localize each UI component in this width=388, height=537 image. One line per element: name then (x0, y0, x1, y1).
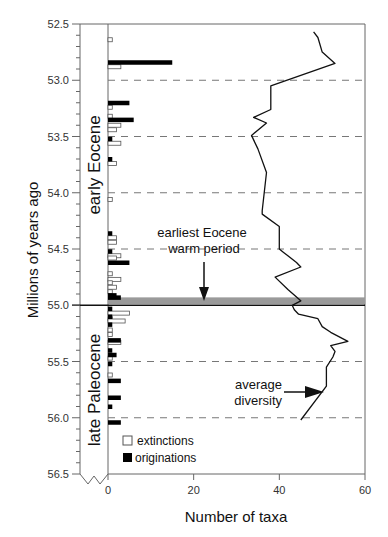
arrow-right-icon (284, 386, 324, 398)
annotation-diversity-line2: diversity (234, 393, 282, 408)
origination-bar (108, 295, 121, 300)
origination-bar (108, 60, 172, 65)
extinction-bar (108, 281, 112, 285)
extinction-bar (108, 256, 117, 260)
origination-bar (108, 307, 112, 312)
extinction-bar (108, 373, 112, 377)
origination-bar (108, 157, 112, 162)
x-tick-label: 0 (105, 484, 111, 496)
extinction-bar (108, 162, 117, 166)
annotation-warm-period-line2: warm period (167, 241, 240, 256)
x-tick-label: 20 (188, 484, 200, 496)
x-tick-label: 40 (273, 484, 285, 496)
extinction-bar (108, 240, 117, 244)
extinction-bar (108, 38, 112, 42)
origination-bar (108, 231, 112, 236)
origination-bar (108, 322, 112, 327)
origination-bar (108, 338, 121, 343)
extinction-bar (108, 65, 121, 69)
extinction-bar (108, 328, 112, 332)
origination-bar (108, 137, 112, 142)
extinction-bar (108, 333, 112, 337)
origination-bar (108, 353, 117, 358)
x-tick-label: 60 (359, 484, 371, 496)
extinction-bar (108, 105, 112, 109)
legend-originations-swatch (123, 453, 132, 462)
extinction-bar (108, 141, 121, 145)
origination-bar (108, 101, 129, 106)
extinction-bar (108, 128, 117, 132)
legend-extinctions-label: extinctions (137, 434, 194, 448)
x-axis-ticks: 0204060 (105, 474, 371, 496)
axis-break-zigzag (80, 474, 108, 484)
origination-bar (108, 249, 112, 254)
y-axis-ticks: 52.553.053.554.054.555.055.556.056.5 (48, 18, 80, 480)
y-axis-title: Millions of years ago (24, 182, 41, 319)
legend-originations-label: originations (135, 451, 196, 465)
x-axis-title: Number of taxa (185, 508, 288, 525)
warm-period-band-rect (108, 297, 365, 304)
origination-bar (108, 348, 112, 353)
y-tick-label: 53.0 (48, 74, 69, 86)
y-tick-label: 53.5 (48, 131, 69, 143)
extinction-bar (108, 272, 112, 276)
y-tick-label: 55.0 (48, 299, 69, 311)
annotation-warm-period-line1: earliest Eocene (157, 225, 247, 240)
y-tick-label: 54.0 (48, 187, 69, 199)
origination-bar (108, 261, 129, 266)
chart-svg: 52.553.053.554.054.555.055.556.056.5 020… (0, 0, 388, 537)
extinction-bar (108, 198, 112, 202)
y-tick-label: 56.0 (48, 412, 69, 424)
y-tick-label: 56.5 (48, 468, 69, 480)
extinction-bar (108, 123, 121, 127)
origination-bar (108, 315, 112, 320)
epoch-label-early-eocene: early Eocene (85, 115, 104, 214)
y-tick-label: 55.5 (48, 356, 69, 368)
origination-bar (108, 118, 134, 123)
legend-extinctions-swatch (123, 436, 132, 445)
chart-container: 52.553.053.554.054.555.055.556.056.5 020… (0, 0, 388, 537)
origination-bar (108, 420, 121, 425)
origination-bar (108, 396, 121, 401)
extinction-bar (108, 285, 117, 289)
origination-bar (108, 405, 112, 410)
legend: extinctions originations (123, 434, 196, 465)
epoch-label-late-paleocene: late Paleocene (85, 334, 104, 446)
arrow-down-icon (199, 262, 209, 301)
y-tick-label: 52.5 (48, 18, 69, 30)
y-tick-label: 54.5 (48, 243, 69, 255)
extinction-bar (108, 236, 117, 240)
origination-bar (108, 362, 112, 367)
origination-bar (108, 379, 121, 384)
annotation-diversity-line1: average (235, 377, 282, 392)
